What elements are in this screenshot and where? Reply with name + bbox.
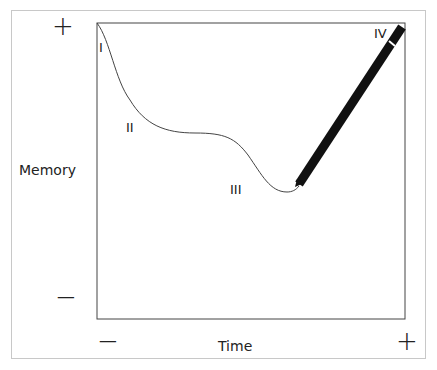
phase-i-label: I	[99, 40, 103, 55]
plot-border	[97, 23, 405, 319]
y-plus-label: +	[52, 13, 74, 39]
memory-curve	[97, 23, 299, 192]
phase-iii-label: III	[230, 182, 242, 197]
x-axis-label: Time	[218, 338, 252, 354]
y-axis-label: Memory	[19, 162, 76, 178]
x-minus-label: −	[97, 328, 119, 354]
plot-area	[0, 0, 437, 370]
phase-iv-label: IV	[374, 26, 387, 41]
phase-iv-bar	[299, 27, 402, 184]
phase-ii-label: II	[126, 120, 134, 135]
y-minus-label: −	[55, 284, 77, 310]
x-plus-label: +	[396, 328, 418, 354]
